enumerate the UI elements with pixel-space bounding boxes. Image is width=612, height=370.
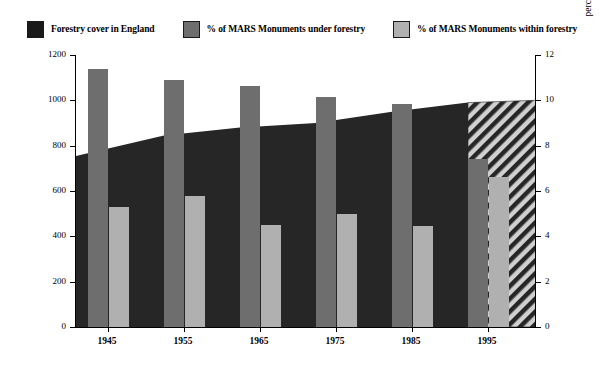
- legend-label-forestry-cover: Forestry cover in England: [51, 24, 155, 34]
- x-axis-label-1985: 1985: [381, 336, 441, 346]
- legend-label-within-forestry: % of MARS Monuments within forestry: [417, 24, 577, 34]
- y-axis-right-tick: [535, 327, 541, 328]
- x-axis-label-1965: 1965: [229, 336, 289, 346]
- y-axis-right-tick: [535, 282, 541, 283]
- y-axis-left-label: 600: [26, 185, 66, 195]
- y-axis-right-label: 4: [545, 230, 567, 240]
- legend-item-within-forestry: % of MARS Monuments within forestry: [393, 21, 577, 38]
- y-axis-left-tick: [70, 100, 76, 101]
- x-axis-label-1995: 1995: [457, 336, 517, 346]
- legend-swatch-forestry-cover: [27, 21, 44, 38]
- y-axis-left-label: 1000: [26, 94, 66, 104]
- y-axis-right-label: 10: [545, 94, 567, 104]
- chart-legend: Forestry cover in England % of MARS Monu…: [0, 18, 612, 40]
- y-axis-left-label: 800: [26, 140, 66, 150]
- chart-figure: Forestry cover in England % of MARS Monu…: [0, 0, 612, 370]
- y-axis-left-label: 200: [26, 276, 66, 286]
- y-axis-right-label: 12: [545, 49, 567, 59]
- y-axis-right-label: 2: [545, 276, 567, 286]
- y-axis-right-tick: [535, 236, 541, 237]
- y-axis-left-label: 0: [26, 321, 66, 331]
- x-axis-label-1975: 1975: [305, 336, 365, 346]
- y-axis-right-tick: [535, 55, 541, 56]
- legend-item-under-forestry: % of MARS Monuments under forestry: [183, 21, 366, 38]
- x-axis-tick: [488, 327, 489, 332]
- y-axis-left-label: 400: [26, 230, 66, 240]
- y-axis-right-label: 8: [545, 140, 567, 150]
- y-axis-left-tick: [70, 236, 76, 237]
- y-axis-right-tick: [535, 191, 541, 192]
- plot-area: [75, 55, 536, 328]
- x-axis-tick: [260, 327, 261, 332]
- x-axis-label-1955: 1955: [153, 336, 213, 346]
- x-axis-tick: [108, 327, 109, 332]
- y-axis-right-tick: [535, 146, 541, 147]
- y-axis-right-title: percentage MARS Monuments under and with…: [583, 0, 593, 48]
- y-axis-left-tick: [70, 282, 76, 283]
- axis-ticks-layer: [76, 55, 536, 327]
- y-axis-right-tick: [535, 100, 541, 101]
- legend-swatch-within-forestry: [393, 21, 410, 38]
- x-axis-tick: [336, 327, 337, 332]
- y-axis-left-tick: [70, 191, 76, 192]
- y-axis-left-tick: [70, 55, 76, 56]
- y-axis-right-label: 0: [545, 321, 567, 331]
- x-axis-tick: [412, 327, 413, 332]
- y-axis-left-title: ha under forestry in England ('000's): [0, 0, 3, 60]
- y-axis-left-tick: [70, 146, 76, 147]
- y-axis-left-label: 1200: [26, 49, 66, 59]
- x-axis-tick: [184, 327, 185, 332]
- y-axis-right-label: 6: [545, 185, 567, 195]
- legend-label-under-forestry: % of MARS Monuments under forestry: [207, 24, 366, 34]
- x-axis-label-1945: 1945: [77, 336, 137, 346]
- legend-swatch-under-forestry: [183, 21, 200, 38]
- legend-item-forestry-cover: Forestry cover in England: [27, 21, 155, 38]
- y-axis-left-tick: [70, 327, 76, 328]
